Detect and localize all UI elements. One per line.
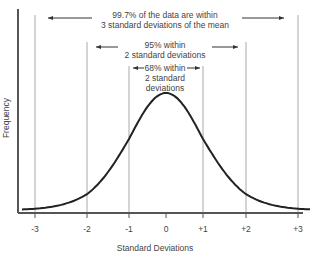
x-tick-label: 0	[164, 224, 169, 234]
bell-curve-chart	[0, 0, 310, 256]
x-tick-label: +3	[293, 224, 303, 234]
arrow-right-icon	[233, 45, 238, 49]
annotation-68-line2: 2 standard	[140, 73, 190, 83]
y-axis-label: Frequency	[1, 98, 11, 138]
annotation-99-7: 99.7% of the data are within 3 standard …	[95, 10, 235, 30]
arrow-right-icon	[279, 16, 284, 20]
arrow-left-icon	[96, 45, 101, 49]
annotation-95-line1: 95% within	[115, 40, 215, 50]
arrow-left-icon	[48, 16, 53, 20]
x-tick-label: +2	[241, 224, 251, 234]
x-axis-label: Standard Deviations	[0, 243, 310, 253]
annotation-99-7-line2: 3 standard deviations of the mean	[95, 20, 235, 30]
annotation-68: 68% within 2 standard deviations	[140, 63, 190, 93]
annotation-68-line3: deviations	[140, 83, 190, 93]
x-tick-label: +1	[198, 224, 208, 234]
arrow-left-icon	[133, 66, 138, 70]
x-tick-label: -3	[31, 224, 39, 234]
annotation-99-7-line1: 99.7% of the data are within	[95, 10, 235, 20]
arrow-right-icon	[195, 66, 200, 70]
x-tick-label: -2	[83, 224, 91, 234]
annotation-95: 95% within 2 standard deviations	[115, 40, 215, 60]
normal-curve	[22, 93, 310, 209]
x-tick-label: -1	[125, 224, 133, 234]
annotation-68-line1: 68% within	[140, 63, 190, 73]
annotation-95-line2: 2 standard deviations	[115, 50, 215, 60]
